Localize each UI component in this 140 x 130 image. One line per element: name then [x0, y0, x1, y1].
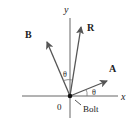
vector-r: [70, 27, 81, 96]
bolt-pointer: [75, 100, 81, 105]
vector-a: [70, 81, 107, 96]
bolt-dot: [68, 94, 73, 99]
x-axis-label: x: [120, 91, 126, 102]
vector-a-label: A: [109, 63, 117, 74]
angle-arc-a-x: [86, 90, 87, 97]
bolt-label: Bolt: [83, 104, 99, 114]
force-diagram: y x 0 B R A θ θ Bolt: [0, 0, 140, 130]
theta-label-b-r: θ: [63, 70, 67, 79]
theta-label-a-x: θ: [92, 88, 96, 97]
origin-label: 0: [57, 102, 62, 112]
vector-b: [47, 42, 70, 96]
vector-r-label: R: [87, 22, 95, 33]
vector-b-label: B: [25, 29, 32, 40]
y-axis-label: y: [63, 4, 69, 15]
angle-arc-b-r: [64, 80, 73, 81]
